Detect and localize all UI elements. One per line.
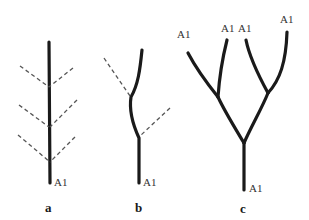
panel-c-caption: c: [240, 201, 246, 216]
panel-a-lateral-right-3: [50, 137, 75, 162]
panel-c-base-label: A1: [249, 182, 262, 194]
panel-a-lateral-right-2: [50, 100, 77, 127]
panel-b-lateral-right: [140, 108, 170, 136]
panel-a-caption: a: [45, 200, 52, 215]
panel-c-tip-2-label: A1: [221, 22, 234, 34]
panel-a: A1 a: [18, 42, 77, 215]
panel-c-tip-4-branch: [268, 32, 287, 93]
panel-b-lateral-left: [104, 58, 130, 96]
panel-c-left-limb: [218, 97, 244, 143]
panel-a-lateral-left-2: [19, 105, 49, 127]
panel-a-base-label: A1: [54, 176, 67, 188]
panel-a-lateral-left-1: [20, 66, 49, 87]
panel-a-main-axis: [49, 42, 50, 183]
panel-c-tip-3-branch: [246, 40, 268, 93]
panel-c-tip-2-branch: [218, 40, 227, 97]
panel-b-base-label: A1: [143, 176, 156, 188]
panel-b-sympodial-axis: [130, 50, 142, 183]
panel-c-tip-1-branch: [188, 53, 218, 97]
panel-a-lateral-right-1: [49, 68, 73, 87]
panel-b: A1 b: [104, 50, 170, 215]
panel-c-tip-1-label: A1: [177, 28, 190, 40]
panel-c-tip-3-label: A1: [238, 22, 251, 34]
panel-c: A1 A1 A1 A1 A1 c: [177, 13, 293, 216]
panel-b-caption: b: [135, 200, 142, 215]
panel-a-lateral-left-3: [18, 135, 50, 162]
panel-c-tip-4-label: A1: [280, 13, 293, 25]
branching-diagram: A1 a A1 b A1 A1 A1 A1 A1 c: [0, 0, 309, 220]
panel-c-right-limb: [244, 93, 268, 143]
